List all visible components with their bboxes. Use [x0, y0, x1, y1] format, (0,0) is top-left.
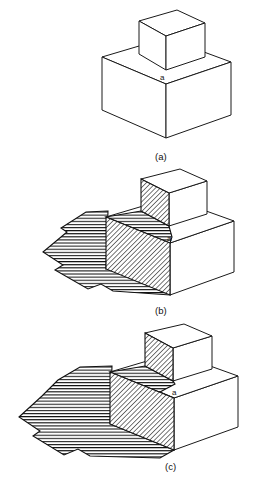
panel-a: a (a)	[0, 0, 255, 165]
point-label-a-panel-c: a	[172, 388, 177, 397]
caption-panel-c: (c)	[165, 461, 176, 472]
panel-b: a (b)	[0, 165, 255, 320]
point-label-a-panel-a: a	[160, 73, 165, 82]
panel-c: a (c)	[0, 320, 255, 493]
caption-panel-a: (a)	[155, 151, 167, 162]
caption-panel-b: (b)	[155, 305, 167, 316]
figure-container: a (a) a	[0, 0, 255, 493]
point-label-a-panel-b: a	[167, 234, 172, 243]
